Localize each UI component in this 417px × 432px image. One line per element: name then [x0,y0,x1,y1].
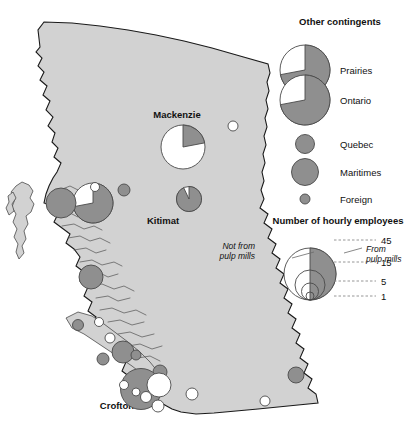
contingent-symbol-foreign-disc [300,194,310,204]
map-symbol-kitimat [177,187,202,212]
annot-leader-right [344,248,362,253]
map-symbol-mackenzie [161,125,205,169]
map-symbol-ne-white-disc [228,121,238,131]
annot-from-pulp-mills-line2: pulp mills [365,254,402,264]
map-symbol-van-sm1-disc [120,381,129,390]
legend-contingents-title: Other contingents [299,16,381,27]
contingent-symbol-maritimes-disc [292,159,319,186]
map-symbol-nanaimo-sm-disc [97,353,109,365]
map-symbol-terrace [46,188,76,218]
map-symbol-campbell-wt [105,333,115,343]
legend-label-quebec: Quebec [340,139,374,150]
nested-size-circles [284,248,336,300]
map-symbol-powell-river-disc [112,341,134,363]
map-symbol-pt-alice [95,318,104,327]
map-symbol-van-sm4 [152,400,164,412]
map-symbol-bella-coola-disc [79,265,103,289]
map-symbol-pr-satellite-disc [91,183,100,192]
size-tick-5: 5 [381,276,386,287]
map-symbol-kootenay [288,367,304,383]
legend-label-prairies: Prairies [340,65,372,76]
map-symbol-border-w2-disc [260,396,270,406]
figure-canvas: Mackenzie Kitimat Crofton Other continge… [0,0,417,432]
contingent-symbol-quebec [296,135,315,154]
map-symbol-terrace-disc [46,188,76,218]
map-symbol-border-w2 [260,396,270,406]
map-symbol-kootenay-disc [288,367,304,383]
annot-not-from-pulp-mills-line1: Not from [222,241,255,251]
map-symbol-interior-dot [118,184,130,196]
haida-gwaii-islands [6,182,34,259]
map-symbol-border-w1 [186,388,198,400]
graham-island [11,182,34,259]
annot-not-from-pulp-mills-line2: pulp mills [219,251,256,261]
legend-other-contingents: Other contingents Prairies Ontario Quebe… [280,16,381,205]
map-symbol-pt-alice-disc [95,318,104,327]
map-symbol-pt-hardy [73,320,84,331]
map-symbol-pt-hardy-disc [73,320,84,331]
contingent-symbol-ontario [280,75,330,125]
map-symbol-pr-satellite [91,183,100,192]
map-symbol-kitimat-gray-wedge [177,187,202,212]
map-symbol-van-sm3 [141,392,152,403]
map-symbol-bella-coola [79,265,103,289]
map-symbol-pr-small-disc [131,350,141,360]
map-symbol-border-w1-disc [186,388,198,400]
contingent-symbol-quebec-disc [296,135,315,154]
contingent-symbol-layer [280,45,330,204]
size-tick-1: 1 [381,291,386,302]
legend-size-title: Number of hourly employees [273,215,404,226]
map-symbol-van-sm1 [120,381,129,390]
bc-proportional-symbol-map: Mackenzie Kitimat Crofton Other continge… [0,0,417,432]
legend-label-maritimes: Maritimes [340,167,381,178]
map-symbol-van-sm2 [132,388,140,396]
map-symbol-van-sm3-disc [141,392,152,403]
legend-label-ontario: Ontario [340,95,371,106]
map-symbol-ne-white [228,121,238,131]
map-symbol-campbell-wt-disc [105,333,115,343]
contingent-symbol-foreign [300,194,310,204]
map-symbol-powell-river [112,341,134,363]
map-symbol-van-sm2-disc [132,388,140,396]
legend-label-foreign: Foreign [340,194,372,205]
map-symbol-interior-dot-disc [118,184,130,196]
map-symbol-pr-small [131,350,141,360]
label-kitimat: Kitimat [147,215,180,226]
map-symbol-nanaimo-sm [97,353,109,365]
contingent-symbol-maritimes [292,159,319,186]
annot-from-pulp-mills-line1: From [366,244,386,254]
map-symbol-van-sm4-disc [152,400,164,412]
label-mackenzie: Mackenzie [153,109,201,120]
